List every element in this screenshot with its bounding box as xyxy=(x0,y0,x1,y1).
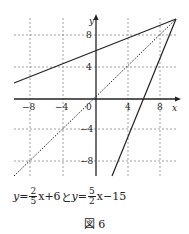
tick-y-4: 4 xyxy=(86,62,92,72)
eq-equals1: = xyxy=(19,190,28,203)
eq-rest2: x−15 xyxy=(97,190,126,203)
tick-y-8: 8 xyxy=(86,30,92,40)
fraction-5-2: 5 2 xyxy=(88,187,96,206)
equation-text: y = 2 5 x+6 と y = 5 2 x−15 xyxy=(13,187,126,206)
line-5-2x-minus-15 xyxy=(112,19,176,176)
tick-x-8: 8 xyxy=(157,102,163,112)
x-axis-label: x xyxy=(172,103,177,113)
tick-x-m8: −8 xyxy=(22,102,36,112)
line-2-5x-plus-6 xyxy=(14,19,176,83)
line-y-equals-x xyxy=(14,19,176,176)
tick-x-4: 4 xyxy=(125,102,131,112)
y-axis-arrow-icon xyxy=(94,14,99,20)
fraction-2-5: 2 5 xyxy=(29,187,37,206)
tick-y-m8: −8 xyxy=(80,156,94,166)
tick-x-m4: −4 xyxy=(55,102,69,112)
x-axis-arrow-icon xyxy=(175,97,181,102)
origin-label: 0 xyxy=(86,102,92,112)
tick-y-m4: −4 xyxy=(80,124,94,134)
eq-and: と xyxy=(61,189,72,205)
eq-rest1: x+6 xyxy=(38,190,60,203)
figure-caption: 図 6 xyxy=(0,215,189,231)
eq-equals2: = xyxy=(78,190,87,203)
y-axis-label: y xyxy=(88,16,95,26)
